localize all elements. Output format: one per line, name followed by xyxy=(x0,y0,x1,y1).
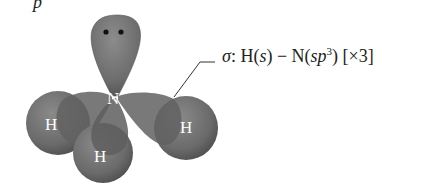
nitrogen-label: N xyxy=(107,89,119,108)
n-part: N( xyxy=(292,46,311,66)
sigma-symbol: σ xyxy=(222,46,231,66)
annotation-leader-line xyxy=(174,62,215,97)
hydrogen-right-label: H xyxy=(180,118,192,137)
lone-pair-electron-icon xyxy=(103,29,108,34)
dash: − xyxy=(272,46,291,66)
hydrogen-left-label: H xyxy=(45,115,57,134)
colon: : xyxy=(231,46,236,66)
h-part: H( xyxy=(240,46,259,66)
lone-pair-electron-icon xyxy=(118,29,123,34)
sigma-bond-annotation: σ: H(s) − N(sp3) [×3] xyxy=(222,46,374,67)
multiplier: [×3] xyxy=(338,46,374,66)
nh3-orbital-diagram: p N H H H xyxy=(0,0,421,184)
n-orbital: sp xyxy=(311,46,327,66)
hydrogen-front-label: H xyxy=(94,147,106,166)
lone-pair-lobe xyxy=(91,15,140,96)
top-fragment-text: p xyxy=(31,0,42,12)
